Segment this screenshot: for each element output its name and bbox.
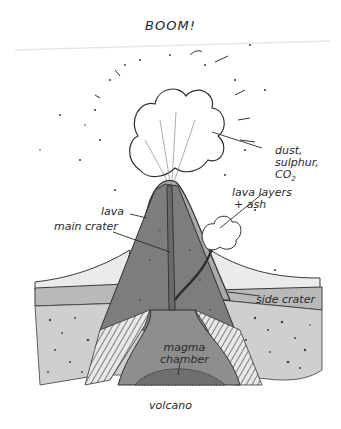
diagram-caption: volcano (0, 399, 341, 412)
eruption-cloud (130, 89, 225, 177)
label-lava: lava (101, 206, 124, 218)
label-main-crater: main crater (54, 221, 118, 233)
lava-flow-right (210, 250, 320, 290)
side-cloud (202, 216, 241, 250)
label-side-crater: side crater (256, 294, 315, 306)
label-dust: dust, sulphur, CO2 (275, 145, 319, 185)
label-magma-chamber: magma chamber (160, 342, 209, 366)
title-divider (15, 41, 330, 50)
label-lava-layers: lava layers + ash (232, 187, 292, 211)
